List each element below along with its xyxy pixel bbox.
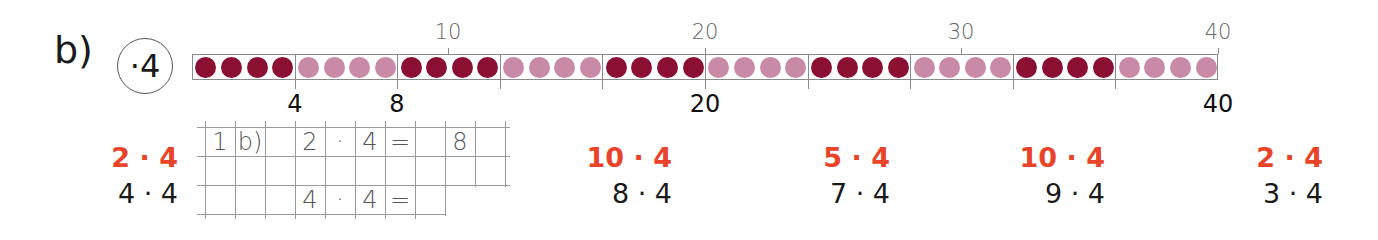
- bead-dark: [683, 57, 704, 78]
- grid-cell-text: 1: [205, 127, 235, 157]
- grid-cell-text: 4: [295, 185, 325, 215]
- bead-light: [298, 57, 319, 78]
- bead-light: [965, 57, 986, 78]
- bead-dark: [657, 57, 678, 78]
- grid-cell-text: =: [385, 127, 415, 157]
- top-tick-mark: [705, 48, 706, 54]
- task-label: b): [54, 30, 93, 70]
- given-expression: 2 · 4: [1256, 140, 1323, 176]
- task-pair: 2 · 44 · 4: [111, 140, 178, 212]
- grid-line: [265, 121, 266, 219]
- target-expression: 3 · 4: [1256, 176, 1323, 212]
- bead-dark: [452, 57, 473, 78]
- bead-light: [349, 57, 370, 78]
- bead-light: [580, 57, 601, 78]
- bottom-label: 40: [1203, 90, 1234, 118]
- bead-dark: [888, 57, 909, 78]
- bead-dark: [862, 57, 883, 78]
- grid-cell-text: 4: [355, 185, 385, 215]
- top-tick-label: 40: [1205, 20, 1232, 44]
- bead-light: [734, 57, 755, 78]
- bead-light: [324, 57, 345, 78]
- top-tick-label: 10: [435, 20, 462, 44]
- bottom-label: 20: [690, 90, 721, 118]
- top-tick-label: 30: [948, 20, 975, 44]
- grid-cell-text: 2: [295, 127, 325, 157]
- given-expression: 10 · 4: [587, 140, 672, 176]
- given-expression: 10 · 4: [1020, 140, 1105, 176]
- bead-light: [760, 57, 781, 78]
- grid-line: [415, 121, 416, 219]
- bead-light: [375, 57, 396, 78]
- bead-dark: [1067, 57, 1088, 78]
- task-pair: 10 · 49 · 4: [1020, 140, 1105, 212]
- task-pair: 10 · 48 · 4: [587, 140, 672, 212]
- given-expression: 2 · 4: [111, 140, 178, 176]
- group-separator: [397, 54, 398, 89]
- bead-dark: [1093, 57, 1114, 78]
- bead-light: [1144, 57, 1165, 78]
- top-tick-label: 20: [692, 20, 719, 44]
- group-separator: [705, 54, 706, 89]
- bead-light: [1196, 57, 1217, 78]
- top-tick-mark: [1218, 48, 1219, 54]
- bead-light: [1170, 57, 1191, 78]
- bottom-label: 4: [287, 90, 302, 118]
- bead-light: [1119, 57, 1140, 78]
- bead-dark: [272, 57, 293, 78]
- group-separator: [500, 54, 501, 89]
- bead-light: [990, 57, 1011, 78]
- target-expression: 4 · 4: [111, 176, 178, 212]
- bead-dark: [247, 57, 268, 78]
- bead-dark: [811, 57, 832, 78]
- bead-dark: [401, 57, 422, 78]
- bead-dark: [1042, 57, 1063, 78]
- group-separator: [295, 54, 296, 89]
- grid-line: [475, 121, 476, 187]
- group-separator: [1013, 54, 1014, 89]
- bead-light: [939, 57, 960, 78]
- bead-dark: [477, 57, 498, 78]
- bead-light: [554, 57, 575, 78]
- bead-light: [529, 57, 550, 78]
- grid-cell-text: 8: [445, 127, 475, 157]
- group-separator: [602, 54, 603, 89]
- target-expression: 8 · 4: [587, 176, 672, 212]
- grid-line: [505, 121, 506, 187]
- bead-light: [785, 57, 806, 78]
- grid-cell-text: b): [235, 127, 265, 157]
- task-pair: 5 · 47 · 4: [823, 140, 890, 212]
- target-expression: 7 · 4: [823, 176, 890, 212]
- bead-light: [708, 57, 729, 78]
- bead-strip: [192, 54, 1218, 80]
- bead-light: [503, 57, 524, 78]
- bead-light: [914, 57, 935, 78]
- bottom-label: 8: [389, 90, 404, 118]
- target-expression: 9 · 4: [1020, 176, 1105, 212]
- given-expression: 5 · 4: [823, 140, 890, 176]
- task-pair: 2 · 43 · 4: [1256, 140, 1323, 212]
- top-tick-mark: [961, 48, 962, 54]
- grid-cell-text: ·: [325, 185, 355, 215]
- grid-cell-text: =: [385, 185, 415, 215]
- group-separator: [1115, 54, 1116, 89]
- grid-cell-text: ·: [325, 127, 355, 157]
- bead-dark: [195, 57, 216, 78]
- top-tick-mark: [448, 48, 449, 54]
- grid-cell-text: 4: [355, 127, 385, 157]
- bead-dark: [1016, 57, 1037, 78]
- bead-dark: [426, 57, 447, 78]
- bead-dark: [606, 57, 627, 78]
- bead-dark: [221, 57, 242, 78]
- group-separator: [910, 54, 911, 89]
- operator-badge: ·4: [117, 38, 173, 94]
- bead-dark: [837, 57, 858, 78]
- bead-dark: [631, 57, 652, 78]
- group-separator: [808, 54, 809, 89]
